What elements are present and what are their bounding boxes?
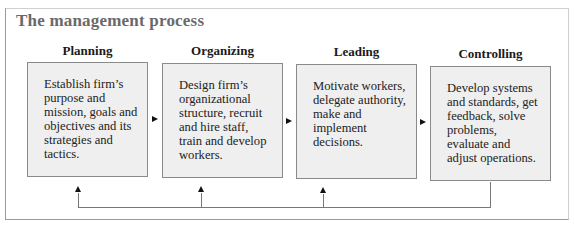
feedback-line — [78, 207, 491, 208]
stage-heading-leading: Leading — [296, 44, 417, 60]
stage-box-organizing: Design firm’s organizational structure, … — [162, 63, 283, 178]
arrow-right-icon — [152, 116, 158, 122]
feedback-line — [323, 194, 324, 208]
stage-heading-planning: Planning — [27, 43, 148, 59]
stage-heading-organizing: Organizing — [162, 43, 283, 59]
stage-box-controlling: Develop systems and standards, get feedb… — [430, 66, 551, 181]
arrow-right-icon — [420, 119, 426, 125]
arrow-up-icon — [75, 186, 81, 192]
arrow-up-icon — [320, 187, 326, 193]
arrow-up-icon — [198, 186, 204, 192]
feedback-line — [78, 193, 79, 208]
diagram-title: The management process — [16, 11, 204, 31]
stage-box-planning: Establish firm’s purpose and mission, go… — [27, 62, 148, 177]
stage-box-leading: Motivate workers, delegate authority, ma… — [296, 64, 417, 179]
arrow-right-icon — [286, 118, 292, 124]
stage-heading-controlling: Controlling — [430, 46, 551, 62]
feedback-line — [201, 193, 202, 208]
feedback-line — [490, 182, 491, 208]
